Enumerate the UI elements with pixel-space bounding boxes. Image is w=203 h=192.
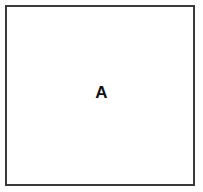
region-label-a: A: [0, 84, 203, 101]
figure-canvas: A: [0, 0, 203, 192]
